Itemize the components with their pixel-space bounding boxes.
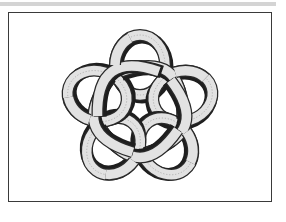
knot-loops: [61, 35, 220, 187]
knot-diagram: [0, 0, 286, 222]
